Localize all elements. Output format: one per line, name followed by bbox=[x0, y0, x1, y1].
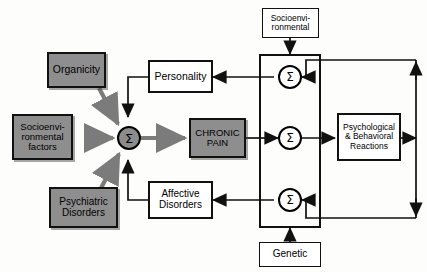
central-summation-node[interactable]: Σ bbox=[117, 126, 141, 150]
middle-summation-node[interactable]: Σ bbox=[278, 126, 302, 150]
node-psychiatric-disorders-line2: Disorders bbox=[51, 208, 116, 219]
node-socioenvironmental-top[interactable]: Socioenvi- ronmental bbox=[262, 8, 319, 38]
node-affective-disorders[interactable]: Affective Disorders bbox=[148, 181, 213, 219]
node-psychiatric-disorders[interactable]: Psychiatric Disorders bbox=[49, 187, 118, 228]
node-psychological-behavioral-reactions[interactable]: Psychological & Behavioral Reactions bbox=[337, 113, 401, 161]
middle-summation-symbol: Σ bbox=[286, 131, 294, 145]
node-affective-disorders-line2: Disorders bbox=[150, 200, 211, 211]
node-reactions-line3: Reactions bbox=[339, 142, 399, 151]
central-summation-symbol: Σ bbox=[125, 131, 133, 146]
node-psychiatric-disorders-line1: Psychiatric bbox=[51, 197, 116, 208]
upper-summation-node[interactable]: Σ bbox=[278, 65, 302, 89]
node-genetic[interactable]: Genetic bbox=[259, 242, 321, 267]
node-personality-label: Personality bbox=[150, 71, 211, 82]
node-organicity-label: Organicity bbox=[49, 64, 104, 75]
node-organicity[interactable]: Organicity bbox=[47, 52, 106, 88]
edge-affective-to-central bbox=[128, 160, 148, 200]
diagram-canvas: Organicity Socioenvi- ronmental factors … bbox=[0, 0, 427, 272]
node-socioenvironmental-top-line2: ronmental bbox=[263, 23, 318, 32]
node-socioenvironmental-factors-line3: factors bbox=[14, 142, 71, 152]
node-genetic-label: Genetic bbox=[260, 249, 320, 260]
upper-summation-symbol: Σ bbox=[286, 70, 294, 84]
lower-summation-node[interactable]: Σ bbox=[278, 188, 302, 212]
node-chronic-pain[interactable]: CHRONIC PAIN bbox=[189, 118, 246, 158]
edge-organicity-to-central bbox=[99, 88, 118, 124]
edge-personality-to-central bbox=[128, 77, 148, 117]
edge-psychiatric-to-central bbox=[100, 154, 119, 190]
node-socioenvironmental-factors[interactable]: Socioenvi- ronmental factors bbox=[12, 114, 73, 160]
lower-summation-symbol: Σ bbox=[286, 193, 294, 207]
node-chronic-pain-line2: PAIN bbox=[191, 138, 244, 148]
node-personality[interactable]: Personality bbox=[148, 60, 213, 93]
